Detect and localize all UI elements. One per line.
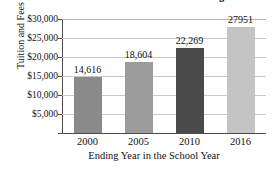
- bar-value-label: 22,269: [176, 35, 204, 46]
- y-axis-tick-label: $5,000: [12, 109, 58, 119]
- bar-value-label: 14,616: [74, 64, 102, 75]
- y-axis-tick-label: $10,000: [12, 90, 58, 100]
- y-axis-tick: [58, 114, 62, 115]
- bar: [176, 48, 204, 133]
- y-axis-tick: [58, 76, 62, 77]
- y-axis-tick: [58, 57, 62, 58]
- x-axis-tick-label: 2010: [179, 136, 200, 147]
- y-axis-tick-label: $15,000: [12, 71, 58, 81]
- x-axis-tick-label: 2005: [128, 136, 149, 147]
- y-axis-tick: [58, 38, 62, 39]
- x-axis-title: Ending Year in the School Year: [40, 150, 268, 161]
- y-axis-tick: [58, 95, 62, 96]
- plot-area: 14,61618,60422,26927951: [62, 19, 266, 133]
- bar-value-label: 18,604: [125, 49, 153, 60]
- bar: [74, 77, 102, 133]
- bar-value-label: 27951: [228, 14, 253, 25]
- y-axis-tick-label: $25,000: [12, 33, 58, 43]
- y-axis-tick: [58, 19, 62, 20]
- x-axis-line: [58, 133, 266, 134]
- bar: [227, 27, 255, 133]
- y-axis-tick-labels: $5,000$10,000$15,000$20,000$25,000$30,00…: [10, 19, 58, 133]
- y-axis-tick-label: $20,000: [12, 52, 58, 62]
- y-axis-tick-label: $30,000: [12, 14, 58, 24]
- x-axis-tick-label: 2016: [230, 136, 251, 147]
- chart-title: Tuition and Fees at Four-Year U.S. Colle…: [0, 0, 274, 2]
- x-axis-tick-label: 2000: [77, 136, 98, 147]
- bar: [125, 62, 153, 133]
- bar-chart: Tuition and Fees at Four-Year U.S. Colle…: [0, 0, 274, 169]
